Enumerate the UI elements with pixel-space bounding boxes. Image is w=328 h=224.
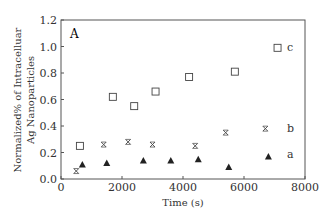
- data-point-b: [74, 169, 79, 174]
- data-point-b: [150, 142, 155, 147]
- y-tick-label: 1.2: [40, 14, 58, 27]
- data-point-c: [131, 103, 138, 110]
- data-point-c: [231, 68, 238, 75]
- data-point-b: [126, 139, 131, 144]
- data-point-c: [109, 93, 116, 100]
- y-tick-label: 0.0: [40, 173, 58, 186]
- data-point-a: [79, 161, 86, 168]
- data-point-c: [152, 88, 159, 95]
- x-axis-label: Time (s): [162, 197, 203, 208]
- data-point-c: [76, 142, 83, 149]
- series-label-a: a: [287, 148, 294, 161]
- y-axis-label-line2: Ag Nanoparticles: [25, 56, 36, 145]
- scatter-chart: 020004000600080000.00.20.40.60.81.01.2 a…: [0, 0, 328, 224]
- data-point-b: [193, 143, 198, 148]
- data-point-a: [103, 160, 110, 167]
- y-axis-label-line1: Normalized% of Intracelluar: [12, 27, 23, 172]
- y-tick-label: 0.2: [40, 147, 58, 160]
- data-point-c: [186, 73, 193, 80]
- x-tick-label: 6000: [230, 181, 258, 194]
- data-point-c: [274, 44, 281, 51]
- series-label-b: b: [287, 122, 294, 135]
- x-tick-label: 8000: [291, 181, 319, 194]
- data-point-b: [223, 130, 228, 135]
- data-point-b: [101, 142, 106, 147]
- y-tick-label: 1.0: [40, 41, 58, 54]
- data-point-b: [263, 126, 268, 131]
- data-point-a: [225, 164, 232, 171]
- data-point-a: [265, 153, 272, 160]
- data-point-a: [140, 157, 147, 164]
- y-tick-label: 0.4: [40, 120, 58, 133]
- series-label-c: c: [287, 41, 293, 54]
- x-tick-label: 2000: [108, 181, 136, 194]
- y-tick-label: 0.6: [40, 94, 58, 107]
- x-tick-label: 4000: [169, 181, 197, 194]
- x-tick-label: 0: [58, 181, 65, 194]
- data-point-a: [167, 157, 174, 164]
- panel-label: A: [69, 27, 79, 41]
- y-tick-label: 0.8: [40, 67, 58, 80]
- data-point-a: [195, 156, 202, 163]
